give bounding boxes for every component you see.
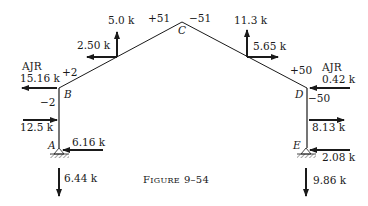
ajr-label-D: AJR xyxy=(321,61,343,73)
reaction-label-A-horizontal: 6.16 k xyxy=(72,136,106,148)
moment-C-left: +51 xyxy=(148,12,170,24)
moment-D-beam: +50 xyxy=(290,64,312,76)
figure-caption: FIGURE9–54 xyxy=(143,174,209,185)
reaction-label-E-vertical: 9.86 k xyxy=(313,174,347,186)
load-label-8-13k: 8.13 k xyxy=(312,121,346,133)
load-label-11-3k: 11.3 k xyxy=(234,14,268,26)
node-label-E: E xyxy=(292,139,301,151)
node-label-C: C xyxy=(178,24,186,36)
load-label-5k: 5.0 k xyxy=(108,14,135,26)
load-label-2-50k: 2.50 k xyxy=(77,39,111,51)
frame-diagram: A B C D E +2 −2 +51 −51 +50 −50 5.0 k 2.… xyxy=(0,0,368,206)
moment-B-beam: +2 xyxy=(62,66,77,78)
node-label-A: A xyxy=(47,139,56,151)
ajr-value-D: 0.42 k xyxy=(322,73,356,85)
moment-D-column: −50 xyxy=(308,92,330,104)
ajr-value-B: 15.16 k xyxy=(20,72,60,84)
rafter-CD xyxy=(182,22,307,88)
ajr-label-B: AJR xyxy=(21,60,43,72)
node-label-D: D xyxy=(294,88,304,100)
moment-B-column: −2 xyxy=(40,96,55,108)
load-label-5-65k: 5.65 k xyxy=(253,40,287,52)
reaction-label-E-horizontal: 2.08 k xyxy=(322,151,356,163)
node-label-B: B xyxy=(63,88,72,100)
moment-C-right: −51 xyxy=(189,12,211,24)
load-label-12-5k: 12.5 k xyxy=(20,121,54,133)
rafter-BC xyxy=(59,22,182,88)
reaction-label-A-vertical: 6.44 k xyxy=(64,172,98,184)
